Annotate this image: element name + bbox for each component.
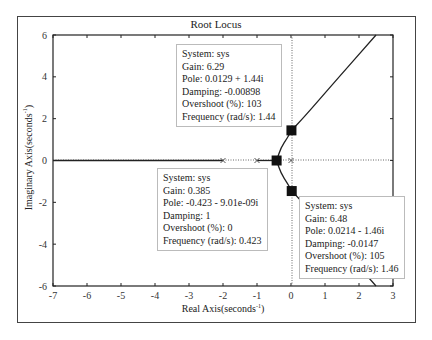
tip-frequency: Frequency (rad/s): 0.423	[163, 235, 262, 248]
data-tip-upper[interactable]: System: sys Gain: 6.29 Pole: 0.0129 + 1.…	[176, 44, 282, 127]
tip-damping: Damping: 1	[163, 210, 262, 223]
tip-overshoot: Overshoot (%): 0	[163, 222, 262, 235]
svg-text:2: 2	[42, 113, 47, 124]
svg-text:-6: -6	[83, 290, 91, 301]
tip-pole: Pole: 0.0214 - 1.46i	[305, 225, 399, 238]
svg-text:-6: -6	[39, 281, 47, 292]
data-tip-breakaway[interactable]: System: sys Gain: 0.385 Pole: -0.423 - 9…	[157, 168, 268, 251]
svg-text:-4: -4	[151, 290, 159, 301]
svg-text:-1: -1	[253, 290, 261, 301]
tip-damping: Damping: -0.0147	[305, 238, 399, 251]
tip-gain: Gain: 6.48	[305, 213, 399, 226]
svg-text:0: 0	[42, 155, 47, 166]
tip-overshoot: Overshoot (%): 105	[305, 250, 399, 263]
svg-text:-7: -7	[49, 290, 57, 301]
svg-text:-4: -4	[39, 239, 47, 250]
y-axis-label: Imaginary Axis(seconds-1)	[22, 98, 33, 218]
tip-damping: Damping: -0.00898	[182, 86, 276, 99]
svg-text:6: 6	[42, 30, 47, 41]
tip-system: System: sys	[305, 200, 399, 213]
svg-text:1: 1	[323, 290, 328, 301]
svg-text:4: 4	[42, 71, 47, 82]
svg-text:-2: -2	[39, 197, 47, 208]
data-tip-lower[interactable]: System: sys Gain: 6.48 Pole: 0.0214 - 1.…	[299, 196, 405, 279]
tip-system: System: sys	[182, 48, 276, 61]
tip-pole: Pole: 0.0129 + 1.44i	[182, 73, 276, 86]
svg-text:-2: -2	[219, 290, 227, 301]
svg-text:0: 0	[289, 290, 294, 301]
tip-frequency: Frequency (rad/s): 1.44	[182, 111, 276, 124]
x-axis-label: Real Axis(seconds-1)	[53, 303, 393, 314]
tip-pole: Pole: -0.423 - 9.01e-09i	[163, 197, 262, 210]
tip-overshoot: Overshoot (%): 103	[182, 98, 276, 111]
tip-frequency: Frequency (rad/s): 1.46	[305, 263, 399, 276]
svg-text:-5: -5	[117, 290, 125, 301]
data-tip-markers[interactable]	[272, 125, 297, 196]
svg-text:2: 2	[357, 290, 362, 301]
tip-gain: Gain: 0.385	[163, 185, 262, 198]
svg-text:-3: -3	[185, 290, 193, 301]
tip-system: System: sys	[163, 172, 262, 185]
tip-gain: Gain: 6.29	[182, 61, 276, 74]
svg-text:3: 3	[391, 290, 396, 301]
